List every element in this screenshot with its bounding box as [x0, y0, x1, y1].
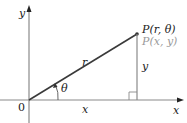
right-angle-marker — [129, 92, 137, 100]
angle-label: θ — [61, 83, 68, 94]
radius-label: r — [82, 57, 87, 68]
diagram-graphics — [0, 0, 187, 123]
x-axis-label: x — [173, 105, 179, 116]
cartesian-point-label: P(x, y) — [142, 36, 177, 47]
polar-point-label: P(r, θ) — [142, 24, 176, 35]
y-axis-label: y — [19, 8, 25, 19]
vertical-segment-label: y — [142, 61, 148, 72]
horizontal-segment-label: x — [82, 104, 88, 115]
x-axis-arrow-icon — [177, 98, 184, 103]
polar-coordinates-diagram: y r P(r, θ) P(x, y) y θ 0 x x — [0, 0, 187, 123]
y-axis-arrow-icon — [27, 5, 32, 12]
origin-label: 0 — [18, 102, 25, 113]
